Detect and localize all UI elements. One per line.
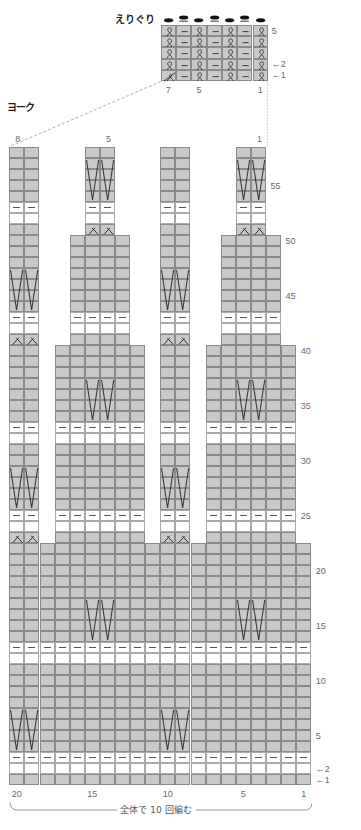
blank-cell bbox=[175, 213, 190, 224]
row-number-label: 30 bbox=[301, 456, 311, 466]
knit-cell bbox=[175, 675, 190, 686]
knit-cell bbox=[175, 741, 190, 752]
knit-cell bbox=[266, 664, 281, 675]
knit-cell bbox=[266, 378, 281, 389]
knit-cell bbox=[100, 367, 115, 378]
knit-cell bbox=[85, 664, 100, 675]
knit-cell bbox=[160, 576, 175, 587]
blank-cell bbox=[55, 521, 70, 532]
knit-cell bbox=[251, 741, 266, 752]
knit-cell bbox=[236, 576, 251, 587]
knit-cell bbox=[24, 598, 39, 609]
knit-cell bbox=[281, 444, 296, 455]
purl-cell bbox=[55, 422, 70, 433]
knit-cell bbox=[130, 697, 145, 708]
knit-cell bbox=[85, 620, 100, 631]
knit-cell bbox=[236, 169, 251, 180]
purl-cell bbox=[9, 202, 24, 213]
blank-cell bbox=[266, 323, 281, 334]
blank-cell bbox=[221, 433, 236, 444]
knit-cell bbox=[266, 455, 281, 466]
knit-cell bbox=[160, 400, 175, 411]
knit-cell bbox=[175, 609, 190, 620]
knit-cell bbox=[266, 631, 281, 642]
knit-cell bbox=[266, 367, 281, 378]
knit-cell bbox=[130, 598, 145, 609]
knit-cell bbox=[40, 741, 55, 752]
knit-cell bbox=[100, 356, 115, 367]
knit-cell bbox=[9, 675, 24, 686]
knit-cell bbox=[70, 301, 85, 312]
knit-cell bbox=[100, 620, 115, 631]
knit-cell bbox=[175, 554, 190, 565]
knit-cell bbox=[281, 466, 296, 477]
knit-cell bbox=[206, 565, 221, 576]
knit-cell bbox=[55, 565, 70, 576]
knit-cell bbox=[266, 257, 281, 268]
knit-cell bbox=[236, 741, 251, 752]
knit-cell bbox=[115, 708, 130, 719]
purl-cell bbox=[175, 422, 190, 433]
knit-cell bbox=[251, 587, 266, 598]
knit-cell bbox=[236, 477, 251, 488]
knit-cell bbox=[130, 345, 145, 356]
blank-cell bbox=[130, 433, 145, 444]
knit-cell bbox=[55, 598, 70, 609]
knit-cell bbox=[130, 466, 145, 477]
knit-cell bbox=[55, 488, 70, 499]
knit-cell bbox=[160, 565, 175, 576]
blank-cell bbox=[24, 521, 39, 532]
blank-cell bbox=[115, 653, 130, 664]
knit-cell bbox=[175, 664, 190, 675]
blank-cell bbox=[266, 653, 281, 664]
purl-cell bbox=[251, 752, 266, 763]
decrease-cell bbox=[100, 224, 115, 235]
knit-cell bbox=[115, 345, 130, 356]
knit-cell bbox=[266, 774, 281, 785]
purl-cell bbox=[251, 422, 266, 433]
knit-cell bbox=[266, 576, 281, 587]
knit-cell bbox=[9, 147, 24, 158]
knit-cell bbox=[160, 499, 175, 510]
knit-cell bbox=[70, 235, 85, 246]
knit-cell bbox=[100, 268, 115, 279]
blank-cell bbox=[175, 763, 190, 774]
knit-cell bbox=[70, 378, 85, 389]
knit-cell bbox=[236, 620, 251, 631]
knit-cell bbox=[24, 609, 39, 620]
column-number-label: 20 bbox=[12, 789, 22, 799]
knit-cell bbox=[206, 345, 221, 356]
knit-cell bbox=[70, 609, 85, 620]
knit-cell bbox=[100, 169, 115, 180]
knit-cell bbox=[100, 235, 115, 246]
knit-cell bbox=[281, 565, 296, 576]
knit-cell bbox=[145, 741, 160, 752]
knit-cell bbox=[221, 543, 236, 554]
knit-cell bbox=[9, 444, 24, 455]
knit-cell bbox=[115, 378, 130, 389]
knit-cell bbox=[236, 257, 251, 268]
stitch-number-label: 5 bbox=[106, 134, 111, 144]
knit-cell bbox=[70, 279, 85, 290]
row-number-label: 5 bbox=[316, 731, 321, 741]
knit-cell bbox=[175, 246, 190, 257]
blank-cell bbox=[100, 213, 115, 224]
knit-cell bbox=[266, 543, 281, 554]
purl-cell bbox=[24, 510, 39, 521]
knit-cell bbox=[130, 499, 145, 510]
purl-cell bbox=[115, 642, 130, 653]
knit-cell bbox=[24, 389, 39, 400]
knit-cell bbox=[9, 158, 24, 169]
knit-cell bbox=[221, 741, 236, 752]
purl-cell bbox=[251, 202, 266, 213]
knit-cell bbox=[281, 378, 296, 389]
blank-cell bbox=[85, 323, 100, 334]
knit-cell bbox=[9, 367, 24, 378]
knit-cell bbox=[281, 477, 296, 488]
knit-cell bbox=[236, 499, 251, 510]
knit-cell bbox=[191, 741, 206, 752]
knit-cell bbox=[85, 675, 100, 686]
right-decrease-icon bbox=[10, 533, 25, 544]
knit-cell bbox=[55, 554, 70, 565]
knit-cell bbox=[251, 488, 266, 499]
